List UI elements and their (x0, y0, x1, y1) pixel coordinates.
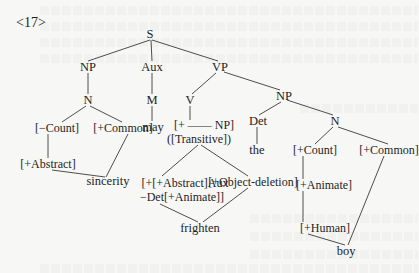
feature-plus-human: [+Human] (300, 222, 350, 235)
feature-transitive: ([Transitive]) (167, 133, 231, 146)
word-may: may (142, 121, 164, 134)
word-boy: boy (337, 245, 356, 258)
node-det: Det (249, 115, 267, 128)
example-number: <17> (16, 16, 46, 29)
node-subject-n: N (83, 94, 92, 107)
selection-restriction-line2: −Det[+Animate]] (140, 191, 224, 204)
feature-plus-common-object: [+Common] (359, 144, 418, 157)
node-s: S (147, 28, 154, 41)
feature-object-deletion: [+Object-deletion] (208, 176, 297, 189)
node-v: V (185, 94, 194, 107)
feature-plus-abstract: [+Abstract] (20, 158, 75, 171)
node-vp: VP (212, 61, 228, 74)
verb-frame: [+ —— NP] (174, 119, 234, 132)
feature-plus-animate: [+Animate] (296, 179, 352, 192)
word-sincerity: sincerity (86, 175, 129, 188)
word-frighten: frighten (180, 222, 220, 235)
node-m: M (146, 94, 157, 107)
node-subject-np: NP (80, 61, 96, 74)
node-object-np: NP (276, 90, 292, 103)
feature-minus-count: [−Count] (35, 122, 79, 135)
node-aux: Aux (141, 61, 163, 74)
feature-plus-count: [+Count] (293, 144, 337, 157)
node-object-n: N (330, 115, 339, 128)
word-the: the (249, 144, 264, 157)
